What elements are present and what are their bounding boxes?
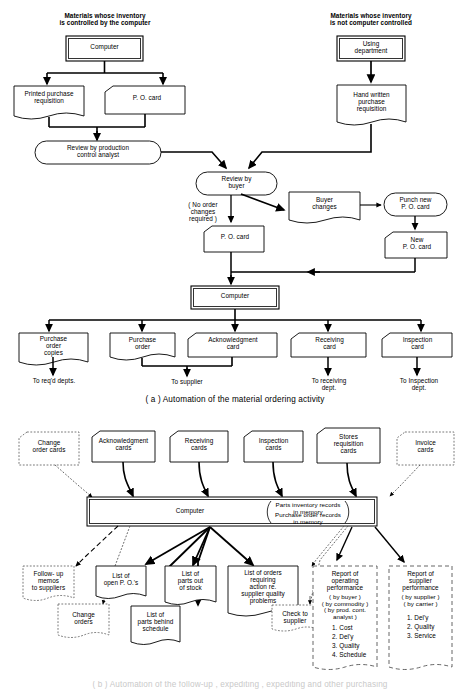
label-computer-top: Computer (66, 44, 143, 51)
label-punch-new-po-card: Punch new P. O. card (384, 197, 447, 211)
label-list-open-pos: List of open P. O.'s (96, 573, 146, 587)
label-report-operating-title: Report of operating performance (313, 571, 377, 592)
label-po-card-1: P. O. card (108, 95, 186, 102)
label-acknowledgment-cards: Acknowledgment cards (92, 438, 155, 452)
header-left: Materials whose inventory is controlled … (34, 13, 176, 27)
label-printed-purchase-req: Printed purchase requisition (14, 91, 84, 105)
label-review-prod-control: Review by production control analyst (35, 145, 161, 159)
label-computer-mid: Computer (191, 293, 279, 300)
label-list-orders-action: List of orders requiring action re. supp… (228, 570, 298, 605)
label-report-operating-item-2: 2. Del'y (332, 634, 378, 641)
label-receiving-card: Receiving card (295, 337, 364, 351)
label-report-operating-item-3: 3. Quality (332, 643, 378, 650)
label-dest-inspection: To Inspection dept. (388, 378, 450, 392)
label-dest-supplier: To supplier (154, 379, 220, 386)
label-review-by-buyer: Review by buyer (196, 176, 277, 190)
label-memory-line-2: Purchase order records in memory (273, 512, 343, 525)
label-purchase-order-copies: Purchase order copies (19, 336, 88, 357)
label-new-po-card: New P. O. card (387, 237, 447, 251)
label-invoice-cards: Invoice cards (397, 440, 454, 454)
label-receiving-cards: Receiving cards (170, 438, 228, 452)
label-list-parts-out: List of parts out of stock (165, 571, 216, 592)
label-buyer-changes: Buyer changes (289, 197, 360, 211)
label-dest-receiving: To receiving dept. (298, 378, 360, 392)
caption-b-partial: ( b ) Automation of the follow-up , expe… (40, 681, 440, 690)
label-acknowledgment-card: Acknowledgment card (191, 337, 275, 351)
label-inspection-card: Inspection card (385, 337, 450, 351)
label-report-supplier-qualifiers: ( by supplier ) ( by carrier ) (388, 594, 453, 607)
label-purchase-order: Purchase order (110, 337, 175, 351)
header-right: Materials whose inventory is not compute… (300, 13, 442, 27)
label-report-operating-qualifiers: ( by buyer ) ( by commodity ) ( by prod.… (311, 594, 379, 621)
label-report-supplier-item-1: 1. Del'y (407, 615, 453, 622)
figure-canvas: Materials whose inventory is controlled … (0, 0, 469, 690)
label-report-supplier-title: Report of supplier performance (389, 571, 452, 592)
label-change-orders: Change orders (58, 612, 109, 626)
label-report-operating-item-1: 1. Cost (332, 625, 378, 632)
label-change-order-cards: Change order cards (19, 440, 79, 454)
label-no-order-changes: ( No order changes required ) (177, 202, 229, 223)
label-po-card-2: P. O. card (206, 234, 264, 241)
label-follow-up-memos: Follow- up memos to suppliers (23, 571, 74, 592)
label-list-parts-behind: List of parts behind schedule (131, 612, 180, 633)
label-report-supplier-item-2: 2. Quality (407, 624, 453, 631)
label-report-supplier-item-3: 3. Service (407, 633, 453, 640)
label-stores-requisition-cards: Stores requisition cards (317, 434, 380, 455)
label-using-department: Using department (337, 41, 405, 55)
label-computer-b: Computer (150, 508, 230, 515)
caption-a: ( a ) Automation of the material orderin… (95, 396, 375, 405)
label-dest-reqd-depts: To req'd depts. (16, 378, 92, 385)
label-hand-written-req: Hand written purchase requisition (337, 92, 406, 113)
label-inspection-cards: Inspection cards (244, 438, 303, 452)
label-report-operating-item-4: 4. Schedule (332, 652, 378, 659)
